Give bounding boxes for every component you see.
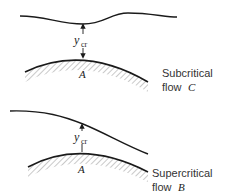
depth-subscript: cr [81, 40, 88, 49]
point-label-a: A [77, 163, 85, 175]
subcritical-panel: y cr A Subcritical flow C [20, 13, 213, 95]
supercritical-panel: y cr A Supercritical flow B [10, 111, 213, 193]
caption-supercritical: Supercritical [152, 167, 213, 179]
depth-symbol: y [73, 33, 80, 47]
caption-flow: flow [162, 81, 182, 93]
caption-flow: flow [152, 181, 172, 193]
caption-flow-letter: C [188, 81, 196, 93]
bed-hatching [20, 40, 155, 95]
flow-over-hump-diagram: y cr A Subcritical flow C y cr A Supercr… [0, 0, 226, 193]
depth-subscript: cr [81, 137, 88, 146]
point-label-a: A [78, 68, 86, 80]
depth-symbol: y [73, 130, 80, 144]
caption-flow-letter: B [178, 181, 185, 193]
caption-subcritical: Subcritical [162, 67, 213, 79]
free-surface-subcritical [20, 13, 177, 24]
